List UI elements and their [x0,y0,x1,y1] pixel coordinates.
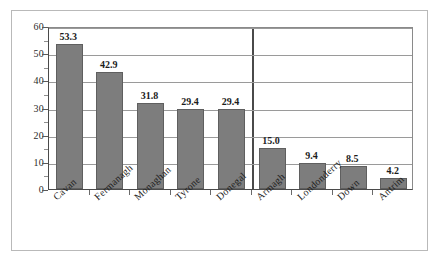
y-axis-tick-label: 50 [18,49,44,59]
bar-value-label: 4.2 [373,166,413,176]
y-axis-tick-mark [42,109,48,110]
bar-value-label: 8.5 [332,154,372,164]
bar-value-label: 42.9 [89,60,129,70]
y-axis-minor-tick [44,149,48,150]
y-axis-tick-label: 20 [18,131,44,141]
x-axis-tick [170,190,171,195]
x-axis-tick [332,190,333,195]
y-axis-tick-label: 30 [18,104,44,114]
bar-chart-figure: 0102030405060 53.3Cavan42.9Fermanagh31.8… [0,0,442,263]
x-axis-tick [251,190,252,195]
y-axis-minor-tick [44,176,48,177]
gridline [49,55,412,56]
bar-value-label: 15.0 [251,136,291,146]
y-axis-tick-mark [42,54,48,55]
y-axis-tick-label: 60 [18,22,44,32]
y-axis-minor-tick [44,95,48,96]
x-axis-tick [89,190,90,195]
bar[interactable] [56,44,83,189]
y-axis-tick-mark [42,190,48,191]
y-axis-tick-mark [42,81,48,82]
y-axis-minor-tick [44,122,48,123]
y-axis-tick-label: 0 [18,185,44,195]
y-axis-minor-tick [44,68,48,69]
bar-value-label: 29.4 [211,97,251,107]
bar-value-label: 29.4 [170,97,210,107]
x-axis-tick [291,190,292,195]
plot-area [48,27,413,190]
y-axis-tick-mark [42,163,48,164]
y-axis-tick-mark [42,136,48,137]
y-axis-tick-mark [42,27,48,28]
x-axis-tick [129,190,130,195]
x-axis-tick [210,190,211,195]
bar-value-label: 53.3 [48,32,88,42]
gridline [49,28,412,29]
group-divider [252,28,254,189]
y-axis-tick-label: 40 [18,76,44,86]
y-axis-tick-label: 10 [18,158,44,168]
y-axis: 0102030405060 [14,27,44,190]
x-axis-tick [372,190,373,195]
bar-value-label: 9.4 [292,151,332,161]
bar-value-label: 31.8 [129,91,169,101]
